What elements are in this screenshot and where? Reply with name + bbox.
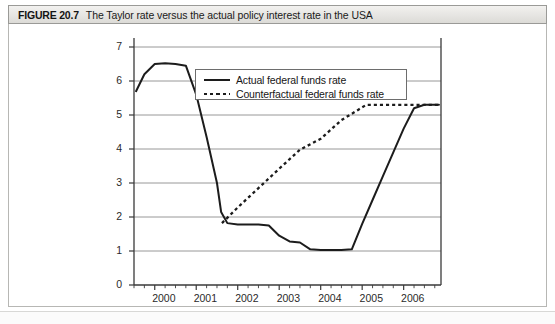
x-tick-label: 2003 bbox=[266, 292, 310, 304]
legend-solid-line-icon bbox=[204, 75, 230, 85]
y-tick-label: 2 bbox=[104, 210, 122, 222]
x-tick-label: 2001 bbox=[183, 292, 227, 304]
x-tick-label: 2000 bbox=[142, 292, 186, 304]
y-tick-label: 5 bbox=[104, 108, 122, 120]
y-tick-label: 0 bbox=[104, 278, 122, 290]
legend-label-counterfactual: Counterfactual federal funds rate bbox=[236, 88, 384, 100]
y-tick-label: 7 bbox=[104, 40, 122, 52]
figure-caption-text: The Taylor rate versus the actual policy… bbox=[86, 9, 373, 21]
chart-legend: Actual federal funds rate Counterfactual… bbox=[195, 69, 407, 100]
figure-caption-bar: FIGURE 20.7 The Taylor rate versus the a… bbox=[8, 5, 547, 24]
y-tick-label: 3 bbox=[104, 176, 122, 188]
x-tick-label: 2002 bbox=[225, 292, 269, 304]
x-tick-label: 2005 bbox=[349, 292, 393, 304]
y-tick-label: 1 bbox=[104, 244, 122, 256]
legend-item-counterfactual: Counterfactual federal funds rate bbox=[204, 87, 406, 100]
x-tick-label: 2006 bbox=[391, 292, 435, 304]
figure-body: 01234567 2000200120022003200420052006 Ac… bbox=[8, 24, 547, 307]
y-tick-label: 6 bbox=[104, 74, 122, 86]
figure-number-label: FIGURE 20.7 bbox=[18, 9, 79, 21]
legend-item-actual: Actual federal funds rate bbox=[204, 73, 406, 86]
y-tick-label: 4 bbox=[104, 142, 122, 154]
page-scan-strip bbox=[0, 311, 555, 324]
legend-label-actual: Actual federal funds rate bbox=[236, 74, 346, 86]
line-chart bbox=[9, 24, 548, 307]
legend-dotted-line-icon bbox=[204, 89, 230, 99]
x-tick-label: 2004 bbox=[308, 292, 352, 304]
